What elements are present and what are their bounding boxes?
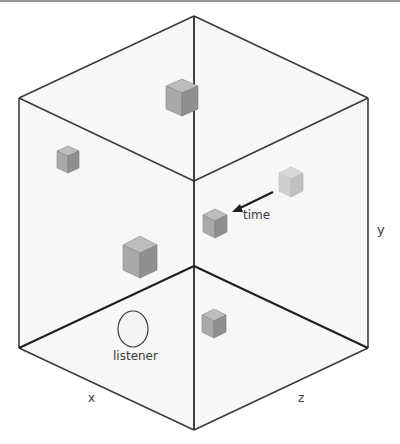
room-diagram: time listener x z y	[0, 0, 400, 444]
sound-source-ghost-cube	[279, 167, 303, 197]
z-axis-label: z	[298, 391, 304, 405]
sound-source-cube	[57, 146, 79, 173]
listener-icon	[118, 311, 148, 347]
listener-label: listener	[113, 349, 158, 363]
sound-source-cube	[203, 209, 227, 238]
y-axis-label: y	[377, 222, 385, 237]
sound-source-cube	[123, 236, 157, 278]
x-axis-label: x	[88, 391, 95, 405]
sound-source-cube	[202, 309, 226, 338]
time-label: time	[243, 208, 270, 222]
sound-source-cube	[166, 79, 198, 116]
